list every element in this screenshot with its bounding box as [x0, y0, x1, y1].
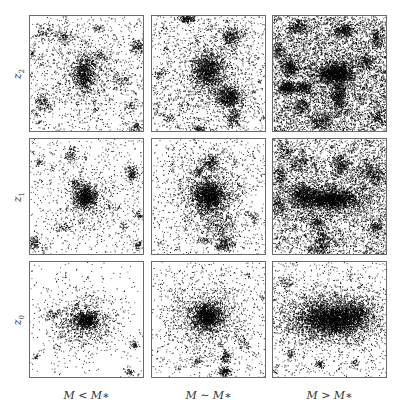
column-label-low-mass: M < M∗ [29, 389, 144, 402]
panel-z0-low-mass [29, 261, 144, 378]
particle-plot [30, 16, 143, 131]
panel-z1-high-mass [272, 138, 387, 255]
particle-plot [30, 262, 143, 377]
particle-plot [273, 16, 386, 131]
panel-z2-high-mass [272, 15, 387, 132]
particle-plot [30, 139, 143, 254]
particle-plot [152, 139, 265, 254]
panel-z2-low-mass [29, 15, 144, 132]
particle-plot [152, 16, 265, 131]
column-label-mid-mass: M ∼ M∗ [151, 389, 266, 402]
panel-z0-high-mass [272, 261, 387, 378]
particle-plot [273, 262, 386, 377]
row-label-z2: z2 [12, 68, 26, 78]
row-label-z1: z1 [12, 191, 26, 201]
panel-z2-mid-mass [151, 15, 266, 132]
particle-plot [152, 262, 265, 377]
column-label-high-mass: M > M∗ [272, 389, 387, 402]
row-label-z0: z0 [12, 314, 26, 324]
simulation-figure: z2 z1 z0 M < M∗ M ∼ M∗ M > M∗ [0, 0, 402, 408]
panel-z1-low-mass [29, 138, 144, 255]
panel-z1-mid-mass [151, 138, 266, 255]
panel-z0-mid-mass [151, 261, 266, 378]
particle-plot [273, 139, 386, 254]
